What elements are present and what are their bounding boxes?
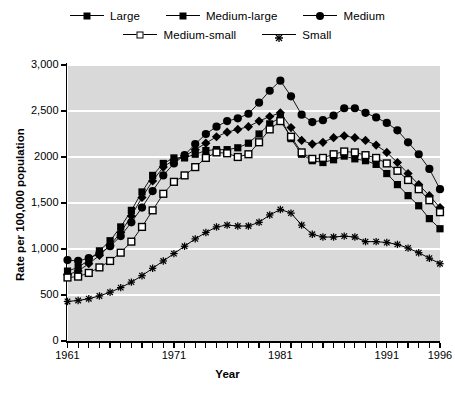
x-axis-title: Year: [0, 368, 455, 380]
data-point-marker: [266, 211, 273, 218]
data-point-marker: [318, 138, 327, 147]
data-point-marker: [330, 233, 337, 240]
data-point-marker: [202, 155, 209, 162]
data-point-marker: [107, 258, 114, 265]
data-point-marker: [106, 289, 113, 296]
data-point-marker: [234, 144, 241, 151]
data-point-marker: [192, 164, 199, 171]
data-point-marker: [394, 181, 401, 188]
data-point-marker: [213, 149, 220, 156]
data-point-marker: [309, 155, 316, 162]
data-point-marker: [213, 223, 220, 230]
data-point-marker: [383, 119, 391, 127]
data-point-marker: [160, 190, 167, 197]
data-point-marker: [117, 284, 124, 291]
data-point-marker: [415, 249, 422, 256]
data-point-marker: [277, 206, 284, 213]
data-point-marker: [64, 274, 71, 281]
data-point-marker: [372, 140, 381, 149]
data-point-marker: [245, 151, 252, 158]
data-point-marker: [117, 232, 125, 240]
data-point-marker: [191, 140, 199, 148]
data-point-marker: [180, 151, 188, 159]
data-point-marker: [415, 202, 422, 209]
data-point-marker: [276, 77, 284, 85]
data-point-marker: [149, 187, 157, 195]
data-point-marker: [393, 126, 401, 134]
data-point-marker: [234, 222, 241, 229]
data-point-marker: [64, 298, 71, 305]
data-point-marker: [287, 92, 295, 100]
data-point-marker: [309, 231, 316, 238]
data-point-marker: [329, 112, 337, 120]
data-point-marker: [159, 171, 167, 179]
data-point-marker: [394, 241, 401, 248]
y-axis-title: Rate per 100,000 population: [14, 128, 26, 281]
data-point-marker: [426, 215, 433, 222]
data-point-marker: [75, 273, 82, 280]
data-point-marker: [383, 239, 390, 246]
data-point-marker: [171, 178, 178, 185]
data-point-marker: [74, 257, 82, 265]
data-point-marker: [266, 87, 274, 95]
data-point-marker: [149, 207, 156, 214]
data-point-marker: [202, 229, 209, 236]
data-point-marker: [223, 128, 232, 137]
data-point-marker: [394, 167, 401, 174]
data-point-marker: [383, 170, 390, 177]
data-point-marker: [255, 219, 262, 226]
data-point-marker: [117, 249, 124, 256]
data-point-marker: [277, 118, 284, 125]
data-point-marker: [234, 154, 241, 161]
data-point-marker: [212, 132, 221, 141]
data-point-marker: [245, 222, 252, 229]
data-point-marker: [138, 204, 146, 212]
data-point-marker: [254, 117, 263, 126]
data-point-marker: [202, 147, 209, 154]
data-point-marker: [245, 140, 252, 147]
data-point-marker: [351, 104, 359, 112]
data-point-marker: [319, 116, 327, 124]
data-point-marker: [192, 235, 199, 242]
data-point-marker: [319, 233, 326, 240]
data-point-marker: [96, 264, 103, 271]
data-point-marker: [106, 242, 114, 250]
data-point-marker: [160, 257, 167, 264]
data-point-marker: [373, 155, 380, 162]
data-point-marker: [298, 221, 305, 228]
data-point-marker: [308, 118, 316, 126]
data-point-marker: [128, 238, 135, 245]
data-point-marker: [426, 197, 433, 204]
data-point-marker: [128, 278, 135, 285]
data-point-marker: [202, 130, 210, 138]
data-point-marker: [96, 292, 103, 299]
figure-caption: [16, 387, 446, 395]
data-point-marker: [201, 139, 210, 148]
data-point-marker: [265, 112, 274, 121]
data-point-marker: [127, 218, 135, 226]
data-point-marker: [426, 255, 433, 262]
data-point-marker: [223, 117, 231, 125]
data-point-marker: [405, 177, 412, 184]
data-point-marker: [330, 151, 337, 158]
data-point-marker: [170, 159, 178, 167]
data-point-marker: [85, 295, 92, 302]
data-point-marker: [244, 122, 253, 131]
data-point-marker: [415, 186, 422, 193]
data-point-marker: [244, 110, 252, 118]
data-point-marker: [351, 233, 358, 240]
data-point-marker: [340, 131, 349, 140]
data-point-marker: [255, 99, 263, 107]
data-point-marker: [181, 172, 188, 179]
data-point-marker: [351, 149, 358, 156]
data-point-marker: [63, 256, 71, 264]
data-point-marker: [436, 225, 443, 232]
data-point-marker: [383, 160, 390, 167]
data-point-marker: [74, 297, 81, 304]
chart-figure: Large Medium-large Medium Medium-sma: [0, 0, 455, 395]
data-point-marker: [320, 155, 327, 162]
plot-area: 05001,0001,50020002,5003,000196119711981…: [0, 0, 455, 395]
data-point-marker: [404, 138, 412, 146]
data-point-marker: [85, 270, 92, 277]
data-point-marker: [223, 221, 230, 228]
